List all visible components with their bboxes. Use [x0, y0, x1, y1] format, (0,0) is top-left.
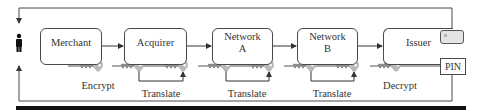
card-icon [440, 30, 464, 44]
pin-box: PIN [440, 58, 466, 75]
bottom-rule [16, 106, 466, 110]
node-network-b-line2: B [309, 43, 346, 55]
node-network-a: Network A [212, 28, 273, 65]
node-network-b-label: Network B [309, 31, 346, 55]
op-label-decrypt: Decrypt [383, 80, 417, 91]
op-label-translate-network-a: Translate [228, 88, 267, 99]
node-network-b-line1: Network [309, 31, 346, 43]
node-acquirer-label: Acquirer [137, 37, 174, 49]
node-issuer-label: Issuer [406, 37, 431, 49]
card-chip [444, 34, 447, 37]
card-return-line [19, 8, 452, 30]
node-merchant: Merchant [40, 28, 102, 65]
person-icon [16, 34, 22, 52]
node-acquirer: Acquirer [124, 28, 187, 65]
pin-translation-diagram: Merchant Acquirer Network A Network B Is… [0, 0, 480, 112]
op-label-encrypt: Encrypt [81, 80, 114, 91]
op-label-translate-network-b: Translate [313, 88, 352, 99]
node-network-a-line1: Network [224, 31, 261, 43]
node-network-a-label: Network A [224, 31, 261, 55]
node-merchant-label: Merchant [51, 37, 91, 49]
node-network-a-line2: A [224, 43, 261, 55]
op-label-translate-acquirer: Translate [142, 88, 181, 99]
node-network-b: Network B [297, 28, 358, 65]
